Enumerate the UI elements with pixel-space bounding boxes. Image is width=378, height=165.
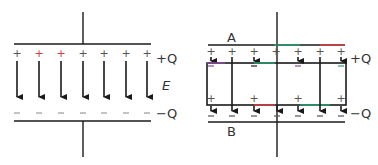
field-lines — [17, 61, 147, 97]
plus-sign: + — [249, 92, 258, 105]
plus-sign: + — [271, 45, 280, 58]
plus-sign: + — [121, 47, 130, 60]
plus-sign: + — [78, 47, 87, 60]
left-capacitor: + + + + + + + +Q E −Q — [12, 12, 177, 157]
plus-sign: + — [293, 45, 302, 58]
plus-sign: + — [249, 45, 258, 58]
plus-sign: + — [206, 92, 215, 105]
plate-a-label: A — [227, 30, 236, 45]
plus-sign: + — [142, 47, 151, 60]
charge-minus-q-label: −Q — [350, 106, 371, 121]
plate-b-label: B — [227, 124, 236, 139]
right-capacitor-with-slab: A + + + + + + + — [206, 12, 371, 157]
slab-bottom-plus-charges: + + + + — [206, 92, 345, 105]
field-lines-through — [232, 57, 320, 111]
field-lines-lower — [211, 106, 341, 111]
plus-sign: + — [227, 45, 236, 58]
plate-a-plus-charges: + + + + + + + — [206, 45, 345, 58]
plus-sign: + — [315, 45, 324, 58]
plus-charges: + + + + + + + — [12, 47, 151, 60]
plus-sign: + — [336, 45, 345, 58]
charge-plus-q-label: +Q — [350, 51, 371, 66]
capacitor-diagram: + + + + + + + +Q E −Q — [0, 0, 378, 165]
plus-sign: + — [336, 92, 345, 105]
plus-sign: + — [56, 47, 65, 60]
plus-sign: + — [34, 47, 43, 60]
plus-sign: + — [206, 45, 215, 58]
plus-sign: + — [293, 92, 302, 105]
plus-sign: + — [12, 47, 21, 60]
charge-minus-q-label: −Q — [156, 106, 177, 121]
field-e-label: E — [162, 78, 171, 93]
charge-plus-q-label: +Q — [156, 51, 177, 66]
plus-sign: + — [99, 47, 108, 60]
